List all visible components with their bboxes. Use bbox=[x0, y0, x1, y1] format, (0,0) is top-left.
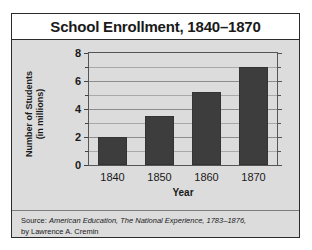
y-axis-tick-minor bbox=[85, 95, 88, 96]
y-axis-tick bbox=[84, 137, 88, 138]
y-axis-tick-minor bbox=[85, 151, 88, 152]
y-axis-tick-minor bbox=[85, 123, 88, 124]
x-axis-tick-label: 1870 bbox=[241, 171, 265, 183]
y-axis-tick-minor-right bbox=[278, 123, 281, 124]
source-separator bbox=[12, 210, 299, 211]
x-axis-tick-label: 1860 bbox=[194, 171, 218, 183]
y-axis-title-line2: (in millions) bbox=[35, 89, 45, 140]
y-axis-tick bbox=[84, 53, 88, 54]
y-axis-tick-right bbox=[278, 109, 282, 110]
source-author: by Lawrence A. Cremin bbox=[21, 227, 99, 236]
chart-figure: School Enrollment, 1840–1870 Number of S… bbox=[11, 13, 300, 238]
bar-1850 bbox=[145, 116, 173, 165]
y-axis-tick bbox=[84, 81, 88, 82]
x-axis-title: Year bbox=[88, 187, 278, 198]
y-axis-tick-minor-right bbox=[278, 67, 281, 68]
y-axis-tick-minor-right bbox=[278, 151, 281, 152]
plot-frame: 024681840185018601870 bbox=[88, 52, 278, 166]
y-axis-tick-label: 6 bbox=[75, 75, 81, 87]
chart-plot-area: Number of Students (in millions) 0246818… bbox=[12, 41, 299, 210]
source-prefix: Source: bbox=[21, 216, 49, 225]
y-axis-title-line1: Number of Students bbox=[24, 71, 34, 157]
bar-1840 bbox=[98, 137, 126, 165]
y-axis-tick-label: 2 bbox=[75, 131, 81, 143]
x-axis-tick-label: 1850 bbox=[147, 171, 171, 183]
y-axis-tick-right bbox=[278, 81, 282, 82]
y-axis-tick-right bbox=[278, 53, 282, 54]
y-axis-tick-label: 0 bbox=[75, 159, 81, 171]
y-axis-tick-right bbox=[278, 137, 282, 138]
x-axis-tick-label: 1840 bbox=[100, 171, 124, 183]
y-axis-tick-minor bbox=[85, 67, 88, 68]
bar-1860 bbox=[192, 92, 220, 166]
source-note: Source: American Education, The National… bbox=[21, 216, 291, 237]
y-axis-tick bbox=[84, 165, 88, 166]
y-axis-tick-label: 8 bbox=[75, 47, 81, 59]
source-work-title: American Education, The National Experie… bbox=[49, 216, 246, 225]
page-title: School Enrollment, 1840–1870 bbox=[50, 18, 260, 35]
chart-title-bar: School Enrollment, 1840–1870 bbox=[12, 14, 299, 40]
y-axis-tick-right bbox=[278, 165, 282, 166]
y-axis-tick-minor-right bbox=[278, 95, 281, 96]
y-axis-title: Number of Students (in millions) bbox=[18, 49, 52, 179]
y-axis-tick-label: 4 bbox=[75, 103, 81, 115]
y-axis-tick bbox=[84, 109, 88, 110]
bar-1870 bbox=[239, 67, 267, 165]
